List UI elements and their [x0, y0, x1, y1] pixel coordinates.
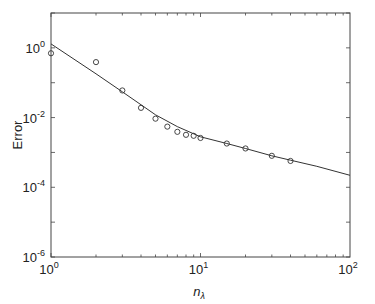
data-markers — [48, 51, 293, 164]
model-curve — [51, 44, 350, 175]
data-point — [198, 135, 203, 140]
data-point — [138, 105, 143, 110]
y-axis-label: Error — [10, 120, 25, 150]
x-axis-label: nλ — [193, 284, 205, 301]
y-tick-labels: 10010-210-410-6 — [23, 39, 45, 265]
y-tick-label: 10-2 — [23, 109, 45, 126]
log-log-error-chart: 10010-210-410-6 100101102 Error nλ — [0, 0, 375, 304]
x-tick-label: 100 — [39, 260, 58, 277]
x-tick-label: 102 — [338, 260, 357, 277]
data-point — [183, 132, 188, 137]
data-point — [93, 60, 98, 65]
data-point — [175, 129, 180, 134]
x-tick-label: 101 — [189, 260, 208, 277]
y-tick-label: 100 — [26, 39, 45, 56]
data-point — [165, 124, 170, 129]
y-tick-label: 10-4 — [23, 178, 45, 195]
x-tick-labels: 100101102 — [39, 260, 357, 277]
model-line — [51, 44, 350, 175]
data-point — [153, 116, 158, 121]
